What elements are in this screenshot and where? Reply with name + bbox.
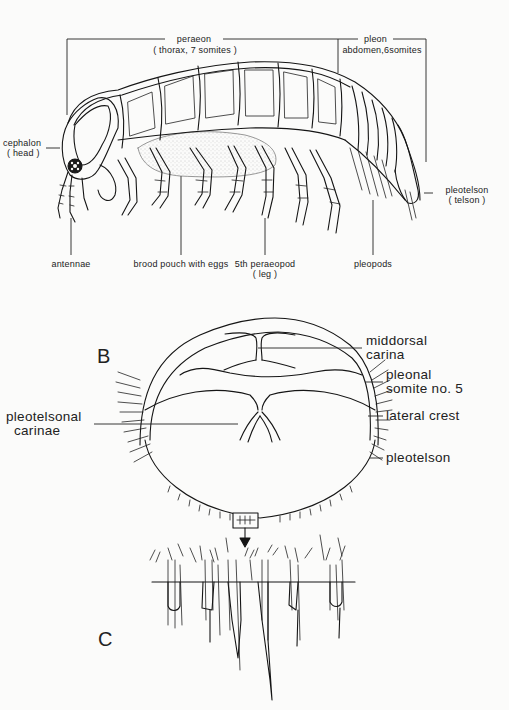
label-pleotelsonal-carinae: pleotelsonal carinae: [6, 410, 82, 438]
label-middorsal-carina: middorsal carina: [366, 334, 427, 362]
label-middorsal-carina-line1: middorsal: [366, 334, 427, 348]
label-pleotelson-subtitle: ( telson ): [436, 195, 498, 205]
illustration-linework: [0, 0, 509, 710]
panel-letter-b: B: [97, 345, 110, 368]
label-cephalon: cephalon ( head ): [3, 138, 41, 158]
label-pleon-subtitle: abdomen,6somites: [340, 45, 424, 55]
label-pleopods: pleopods: [348, 259, 398, 269]
label-cephalon-subtitle: ( head ): [3, 148, 41, 158]
label-lateral-crest: lateral crest: [386, 409, 460, 423]
panel-letter-c: C: [98, 628, 112, 651]
label-pleotelsonal-carinae-line1: pleotelsonal: [6, 410, 82, 424]
anatomy-figure: peraeon ( thorax, 7 somites ) pleon abdo…: [0, 0, 509, 710]
label-cephalon-title: cephalon: [3, 138, 41, 148]
label-middorsal-carina-line2: carina: [366, 348, 427, 362]
label-pleonal-somite-5-line2: somite no. 5: [386, 382, 463, 396]
label-peraeon-subtitle: ( thorax, 7 somites ): [140, 45, 250, 55]
label-antennae: antennae: [41, 259, 101, 269]
label-5th-peraeopod: 5th peraeopod ( leg ): [234, 259, 296, 279]
label-5th-peraeopod-subtitle: ( leg ): [234, 269, 296, 279]
setae-detail: [150, 535, 355, 700]
label-pleonal-somite-5-line1: pleonal: [386, 368, 463, 382]
label-brood-pouch: brood pouch with eggs: [128, 259, 234, 269]
label-pleotelsonal-carinae-line2: carinae: [6, 424, 82, 438]
label-peraeon: peraeon: [165, 34, 223, 44]
label-pleon: pleon: [358, 34, 393, 44]
label-pleotelson-title: pleotelson: [436, 185, 498, 195]
pleotelson-outline: [116, 318, 392, 547]
label-peraeon-title: peraeon: [165, 34, 223, 44]
label-pleotelson-b: pleotelson: [386, 451, 451, 465]
label-pleotelson-telson: pleotelson ( telson ): [436, 185, 498, 205]
label-pleonal-somite-5: pleonal somite no. 5: [386, 368, 463, 396]
label-5th-peraeopod-title: 5th peraeopod: [234, 259, 296, 269]
